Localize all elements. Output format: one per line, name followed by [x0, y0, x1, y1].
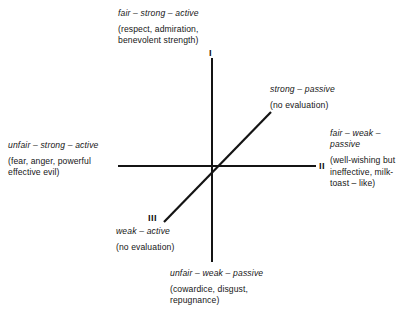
axis-numeral-one: I [209, 48, 212, 58]
semantic-differential-diagram: I II III fair – strong – active (respect… [0, 0, 420, 318]
diagonal-axis-line [160, 108, 275, 226]
label-left-gloss: (fear, anger, powerful effective evil) [8, 156, 99, 179]
label-top-gloss-line1: (respect, admiration, [118, 24, 199, 35]
label-diagonal-upper-gloss-line1: (no evaluation) [270, 100, 335, 111]
label-diagonal-upper-gloss: (no evaluation) [270, 100, 335, 111]
label-right: fair – weak – passive (well-wishing but … [330, 128, 395, 190]
label-right-gloss-line2: ineffective, milk- [330, 167, 395, 178]
label-diagonal-upper-term: strong – passive [270, 84, 335, 95]
label-right-gloss: (well-wishing but ineffective, milk- toa… [330, 155, 395, 189]
label-right-term-line1: fair – weak – [330, 128, 395, 139]
label-top-gloss: (respect, admiration, benevolent strengt… [118, 24, 199, 47]
label-diagonal-lower-term: weak – active [116, 226, 174, 237]
label-right-term: fair – weak – passive [330, 128, 395, 151]
label-diagonal-upper: strong – passive (no evaluation) [270, 84, 335, 111]
label-right-gloss-line3: toast – like) [330, 178, 395, 189]
label-diagonal-lower: weak – active (no evaluation) [116, 226, 174, 253]
label-bottom-term: unfair – weak – passive [170, 268, 263, 279]
label-left-term: unfair – strong – active [8, 140, 99, 151]
axis-numeral-two: II [319, 161, 325, 171]
label-diagonal-lower-gloss: (no evaluation) [116, 242, 174, 253]
label-right-gloss-line1: (well-wishing but [330, 155, 395, 166]
label-bottom-gloss-line2: repugnance) [170, 295, 263, 306]
axis-numeral-three: III [148, 213, 157, 223]
label-right-term-line2: passive [330, 139, 395, 150]
label-bottom-gloss: (cowardice, disgust, repugnance) [170, 284, 263, 307]
label-left-gloss-line1: (fear, anger, powerful [8, 156, 99, 167]
label-top: fair – strong – active (respect, admirat… [118, 8, 199, 47]
label-top-gloss-line2: benevolent strength) [118, 35, 199, 46]
label-bottom: unfair – weak – passive (cowardice, disg… [170, 268, 263, 307]
label-left: unfair – strong – active (fear, anger, p… [8, 140, 99, 179]
label-bottom-gloss-line1: (cowardice, disgust, [170, 284, 263, 295]
label-top-term: fair – strong – active [118, 8, 199, 19]
label-left-gloss-line2: effective evil) [8, 167, 99, 178]
label-diagonal-lower-gloss-line1: (no evaluation) [116, 242, 174, 253]
